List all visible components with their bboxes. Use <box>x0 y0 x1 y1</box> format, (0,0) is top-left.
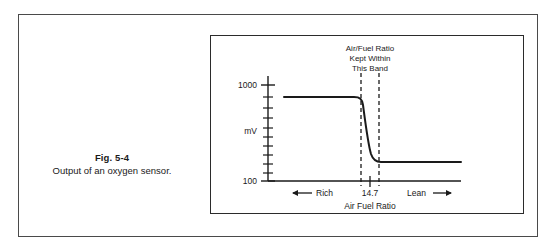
y-axis-label: mV <box>244 126 257 136</box>
x-axis-label: Air Fuel Ratio <box>344 201 396 211</box>
rich-arrow-head <box>292 190 298 196</box>
rich-range-label: Rich <box>292 188 333 198</box>
figure-caption-subtitle: Output of an oxygen sensor. <box>22 165 202 177</box>
lean-arrow-head <box>446 190 452 196</box>
band-annotation-line-3: This Band <box>352 64 388 73</box>
oxygen-sensor-response-chart: 1000 100 mV Air/Fuel Ratio Kept Within T… <box>211 36 522 212</box>
lean-range-label: Lean <box>407 188 452 198</box>
y-tick-label-1000: 1000 <box>238 80 257 90</box>
chart-panel: 1000 100 mV Air/Fuel Ratio Kept Within T… <box>210 35 524 214</box>
figure-caption-title: Fig. 5-4 <box>22 152 202 164</box>
y-tick-label-100: 100 <box>243 176 257 186</box>
band-annotation: Air/Fuel Ratio Kept Within This Band <box>346 44 395 73</box>
x-tick-label-stoich: 14.7 <box>362 188 379 198</box>
sensor-response-curve <box>284 97 461 162</box>
band-annotation-line-1: Air/Fuel Ratio <box>346 44 395 53</box>
lean-label-text: Lean <box>407 188 426 198</box>
rich-label-text: Rich <box>316 188 333 198</box>
figure-caption: Fig. 5-4 Output of an oxygen sensor. <box>22 152 202 177</box>
band-annotation-line-2: Kept Within <box>350 54 391 63</box>
